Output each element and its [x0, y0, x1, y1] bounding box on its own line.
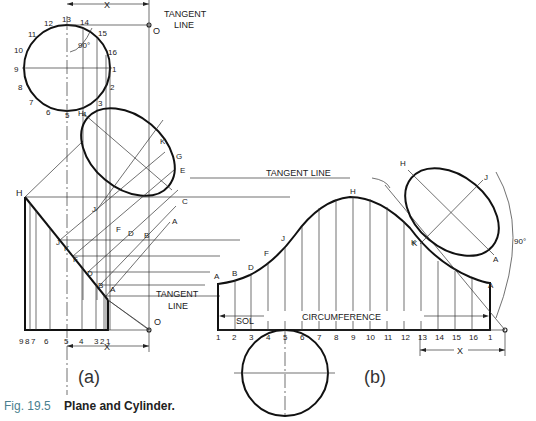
angle-arc-b — [496, 172, 513, 318]
ellipse-b-point-label: K — [412, 239, 418, 248]
development-outline — [218, 197, 490, 330]
circle-point-label: 1 — [112, 65, 117, 74]
ellipse-b-point-label: A — [493, 255, 499, 264]
circle-point-label: 7 — [29, 98, 34, 107]
diagonal-projectors — [60, 152, 178, 330]
ellipse-b-point-label: H — [400, 159, 406, 168]
base-b-number-label: 2 — [232, 333, 237, 342]
circle-point-label: 5 — [65, 111, 70, 120]
ellipse-b-point-label: J — [484, 173, 488, 182]
circle-point-label: 10 — [14, 46, 23, 55]
curve-point-label: D — [248, 263, 254, 272]
angle-b-label: 90° — [514, 237, 526, 246]
base-b-number-label: 12 — [401, 333, 410, 342]
edge-point-label: J — [56, 238, 60, 247]
figure-number: Fig. 19.5 — [4, 399, 51, 413]
edge-point-label: H — [16, 188, 23, 198]
ellipse-point-label: E — [180, 166, 185, 175]
circle-point-label: 12 — [44, 19, 53, 28]
ellipse-point-label: H — [78, 109, 84, 118]
figure-caption: Fig. 19.5 Plane and Cylinder. — [4, 399, 175, 413]
base-b-number-label: 15 — [452, 333, 461, 342]
curve-point-label: A — [488, 281, 494, 290]
tangent-label-top-2: LINE — [174, 20, 194, 30]
circle-point-label: 15 — [98, 29, 107, 38]
base-b-number-label: 4 — [266, 333, 271, 342]
dim-x-top-label: X — [104, 0, 110, 10]
edge-point-label: A — [110, 285, 116, 294]
base-b-number-label: 10 — [366, 333, 375, 342]
ellipse-point-label: B — [144, 231, 149, 240]
base-number-label: 3 — [94, 337, 99, 346]
base-b-number-label: 9 — [351, 333, 356, 342]
ellipse-point-label: K — [160, 137, 166, 146]
base-number-label: 7 — [31, 337, 36, 346]
view-b-label: (b) — [364, 367, 386, 387]
ellipse-point-label: D — [128, 229, 134, 238]
base-number-label: 4 — [79, 337, 84, 346]
curve-point-label: J — [281, 234, 285, 243]
base-b-number-label: 13 — [418, 333, 427, 342]
base-b-number-label: 1 — [216, 333, 221, 342]
base-b-number-label: 16 — [469, 333, 478, 342]
circle-point-label: 14 — [80, 18, 89, 27]
circumference-label: CIRCUMFERENCE — [302, 312, 381, 322]
base-b-number-label: 14 — [435, 333, 444, 342]
tangent-label-b: TANGENT LINE — [266, 168, 331, 178]
plane-cylinder-drawing: X TANGENT LINE O 90° 1 2 3 4 5 6 7 8 9 1… — [0, 0, 536, 421]
circle-point-label: 6 — [46, 108, 51, 117]
tangent-line-bottom — [108, 300, 149, 330]
ellipse-point-label: A — [172, 217, 178, 226]
base-b-number-label: 1 — [488, 333, 493, 342]
tangent-label-bottom-1: TANGENT — [156, 289, 199, 299]
edge-point-label: B — [98, 281, 103, 290]
circle-point-label: 8 — [18, 83, 23, 92]
tangent-label-top-1: TANGENT — [164, 9, 207, 19]
labels: X TANGENT LINE O 90° 1 2 3 4 5 6 7 8 9 1… — [14, 0, 526, 387]
edge-point-label: D — [87, 269, 93, 278]
point-o-top-label: O — [153, 26, 160, 36]
tangent-leader — [372, 178, 390, 188]
view-a-label: (a) — [78, 367, 100, 387]
edge-point-label: F — [73, 255, 78, 264]
dim-x-b-label: X — [457, 346, 463, 356]
edge-point-label: K — [64, 244, 70, 253]
circle-point-label: 13 — [62, 15, 71, 24]
ellipse-point-label: C — [182, 197, 188, 206]
base-b-number-label: 5 — [283, 333, 288, 342]
base-b-number-label: 3 — [249, 333, 254, 342]
front-view-outline — [25, 197, 108, 330]
point-o-bottom-label: O — [154, 317, 161, 327]
angle-a-label: 90° — [78, 41, 90, 50]
base-b-number-label: 6 — [300, 333, 305, 342]
element-lines-b — [235, 197, 472, 330]
ellipse-point-label: G — [176, 152, 182, 161]
curve-point-label: A — [214, 272, 220, 281]
sol-label: SOL — [236, 316, 254, 326]
base-number-label: 9 — [19, 337, 24, 346]
base-number-label: 8 — [25, 337, 30, 346]
tangent-label-bottom-2: LINE — [168, 301, 188, 311]
circle-point-label: 16 — [108, 48, 117, 57]
base-b-number-label: 7 — [317, 333, 322, 342]
circle-point-label: 3 — [98, 99, 103, 108]
base-b-number-label: 11 — [384, 333, 393, 342]
horizontal-projectors — [25, 178, 350, 296]
base-number-label: 5 — [64, 337, 69, 346]
ellipse-point-label: F — [116, 225, 121, 234]
circle-point-label: 11 — [28, 30, 37, 39]
curve-point-label: H — [350, 187, 356, 196]
figure-title: Plane and Cylinder. — [64, 399, 175, 413]
base-number-label: 6 — [44, 337, 49, 346]
projector — [25, 141, 83, 197]
ellipse-point-label: J — [92, 205, 96, 214]
curve-point-label: F — [264, 249, 269, 258]
dim-x-bottom-label: X — [104, 342, 110, 352]
circle-point-label: 9 — [14, 65, 19, 74]
circle-point-label: 2 — [110, 83, 115, 92]
base-b-number-label: 8 — [334, 333, 339, 342]
curve-point-label: B — [232, 269, 237, 278]
